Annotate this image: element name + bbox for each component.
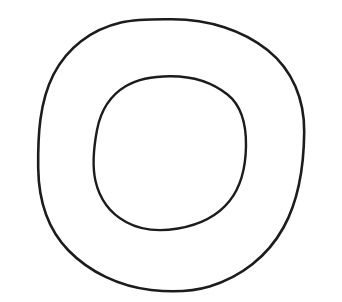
concentric-circles-figure: Concentric circles line drawing Two conc… [0,0,342,302]
drawing-canvas: Concentric circles line drawing Two conc… [0,0,342,302]
canvas-background [0,0,342,302]
